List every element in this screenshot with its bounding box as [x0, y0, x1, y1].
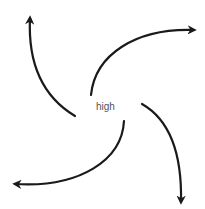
arrow-bottom-left — [15, 121, 124, 184]
center-label: high — [96, 100, 115, 114]
arrow-bottom-right — [142, 104, 181, 202]
arrow-top-right — [91, 30, 194, 95]
arrow-top-left — [30, 18, 75, 116]
